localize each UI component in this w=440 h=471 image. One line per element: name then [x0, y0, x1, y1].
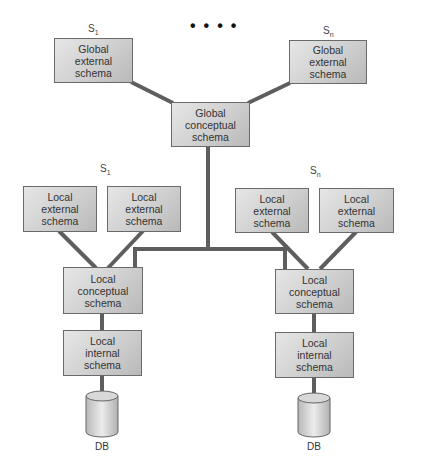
site-label-s1-local: S1 [100, 163, 111, 176]
local-external-schema-sn-a: Local external schema [235, 188, 309, 233]
local-external-schema-s1-b: Local external schema [107, 186, 181, 232]
database-cylinder-sn [297, 392, 331, 442]
database-cylinder-s1 [85, 390, 119, 440]
db-label-s1: DB [82, 441, 122, 452]
ellipsis-more-sites: •••• [190, 17, 244, 35]
site-label-sn-local: Sn [310, 165, 321, 178]
local-internal-schema-s1: Local internal schema [63, 330, 142, 376]
global-conceptual-schema: Global conceptual schema [171, 102, 250, 147]
local-internal-schema-sn: Local internal schema [275, 332, 354, 378]
local-conceptual-schema-sn: Local conceptual schema [275, 269, 354, 314]
local-conceptual-schema-s1: Local conceptual schema [63, 267, 143, 314]
db-label-sn: DB [294, 441, 334, 452]
global-external-schema-sn: Global external schema [289, 40, 367, 84]
global-external-schema-s1: Global external schema [54, 38, 133, 83]
site-label-sn-global: Sn [323, 25, 334, 38]
site-label-s1-global: S1 [88, 23, 99, 36]
local-external-schema-s1-a: Local external schema [23, 186, 97, 232]
local-external-schema-sn-b: Local external schema [319, 188, 394, 233]
